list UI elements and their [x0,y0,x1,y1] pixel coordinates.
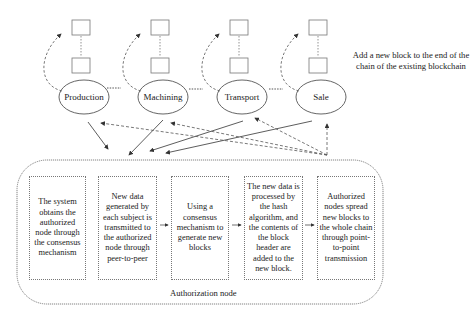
stage-label-machining: Machining [138,92,188,102]
arrow-machining-to-auth [129,120,163,155]
step-1-text: The system obtains the authorized node t… [30,197,85,258]
add-block-note: Add a new block to the end of the chain … [350,50,472,71]
arrow-production-to-auth [88,122,108,149]
step-1-box: The system obtains the authorized node t… [29,176,86,280]
feedback-arrow-transport [255,118,327,155]
add-block-arrow-sale [281,34,299,91]
step-3-box: Using a consensus mechanism to generate … [171,176,229,280]
step-4-box: The new data is processed by the hash al… [244,176,303,280]
stage-label-transport: Transport [217,92,267,102]
feedback-arrow-machining [171,123,327,155]
blockchain-transport [230,20,248,73]
step-5-text: Authorized nodes spread new blocks to th… [318,192,374,263]
blockchain-sale [309,20,327,73]
add-block-arrow-transport [202,34,220,91]
step-3-text: Using a consensus mechanism to generate … [172,202,228,253]
add-block-arrow-production [44,34,62,91]
arrow-sale-to-auth [166,121,312,153]
blockchain-machining [151,20,169,73]
step-4-text: The new data is processed by the hash al… [245,182,302,274]
stage-label-production: Production [59,92,109,102]
stage-label-sale: Sale [296,92,346,102]
blockchain-production [72,20,90,73]
step-2-text: New data generated by each subject is tr… [99,192,156,263]
step-5-box: Authorized nodes spread new blocks to th… [317,176,375,280]
feedback-arrow-production [101,123,327,155]
add-block-arrow-machining [123,34,141,91]
step-2-box: New data generated by each subject is tr… [98,176,157,280]
authorization-node-label: Authorization node [170,288,237,298]
